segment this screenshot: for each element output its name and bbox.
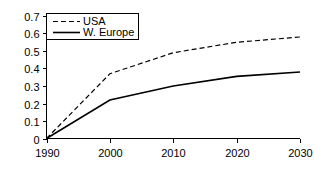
line-chart: 00.10.20.30.40.50.60.7 19902000201020202… [0,0,314,174]
x-tick-label: 1990 [35,147,59,159]
x-tick-label: 2020 [225,147,249,159]
y-tick-label: 0 [33,134,39,146]
y-tick-label-group: 00.10.20.30.40.50.60.7 [24,11,39,146]
y-tick-label: 0.3 [24,81,39,93]
y-axis: 00.10.20.30.40.50.60.7 [24,11,46,146]
x-tick-label: 2000 [98,147,122,159]
legend-label-w-europe: W. Europe [83,26,134,38]
x-tick-label: 2030 [288,147,312,159]
series-line-usa [47,37,301,139]
y-tick-label: 0.1 [24,116,39,128]
y-tick-label: 0.4 [24,63,39,75]
y-tick-label: 0.2 [24,99,39,111]
y-tick-label: 0.6 [24,28,39,40]
series-line-w-europe [47,72,301,139]
x-axis: 19902000201020202030 [35,139,312,159]
series-group [47,37,301,139]
x-tick-label-group: 19902000201020202030 [35,147,312,159]
y-tick-label: 0.5 [24,46,39,58]
chart-canvas: 00.10.20.30.40.50.60.7 19902000201020202… [0,0,314,174]
chart-legend: USA W. Europe [47,14,139,40]
x-tick-label: 2010 [161,147,185,159]
y-tick-group [43,17,47,140]
y-tick-label: 0.7 [24,11,39,23]
x-tick-group [48,139,301,143]
